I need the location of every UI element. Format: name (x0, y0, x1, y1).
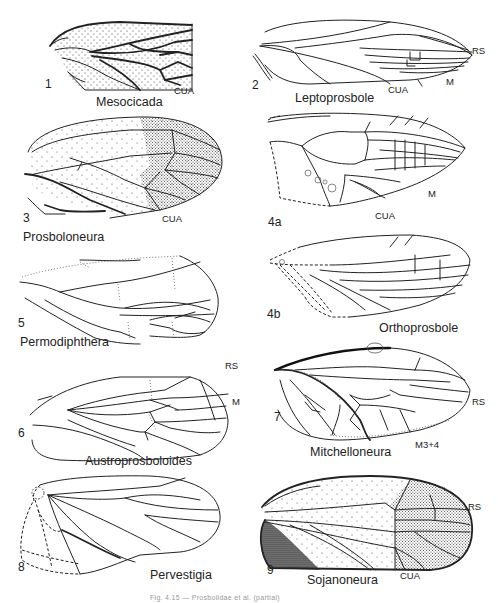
panel-number: 3 (23, 211, 30, 225)
panel-number: 1 (45, 77, 52, 91)
wing-drawing-orthoprosbole-4b (250, 225, 498, 335)
vein-label-cua: CUA (375, 210, 395, 221)
vein-label-m: M (446, 76, 454, 87)
vein-label-rs: RS (468, 501, 481, 512)
genus-name: Pervestigia (150, 568, 212, 582)
panel-number: 2 (252, 78, 259, 92)
genus-name: Permodiphthera (20, 335, 109, 349)
vein-label-cua: CUA (162, 213, 182, 224)
wing-panel-7: 7 Mitchelloneura RS M3+4 (250, 340, 498, 465)
wing-panel-4b: 4b Orthoprosbole (250, 225, 498, 335)
wing-panel-5: 5 Permodiphthera (0, 240, 250, 360)
panel-number: 6 (18, 426, 25, 440)
wing-panel-1: 1 Mesocicada CUA (0, 0, 250, 110)
panel-number: 4b (267, 307, 280, 321)
vein-label-rs: RS (225, 360, 238, 371)
wing-drawing-pervestigia (0, 470, 250, 595)
panel-number: 8 (18, 560, 25, 574)
genus-name: Orthoprosbole (379, 321, 458, 335)
panel-number: 7 (274, 410, 281, 424)
wing-panel-8: 8 Pervestigia (0, 470, 250, 595)
genus-name: Mitchelloneura (310, 445, 391, 459)
genus-name: Austroprosboloides (85, 454, 192, 468)
vein-label-cua: CUA (174, 85, 194, 96)
wing-panel-6: 6 Austroprosboloides RS M (0, 360, 250, 480)
vein-label-m3-4: M3+4 (415, 439, 439, 450)
vein-label-m: M (428, 188, 436, 199)
vein-label-m: M (232, 396, 240, 407)
panel-number: 9 (267, 563, 274, 577)
figure-caption: Fig. 4.15 — Prosbolidae et al. (partial) (150, 594, 280, 601)
wing-panel-2: 2 Leptoprosbole RS M CUA (250, 0, 498, 110)
wing-panel-9: 9 Sojanoneura RS CUA (250, 470, 498, 595)
wing-drawing-mesocicada (0, 0, 250, 110)
vein-label-rs: RS (472, 396, 485, 407)
genus-name: Leptoprosbole (295, 91, 374, 105)
genus-name: Sojanoneura (307, 573, 378, 587)
vein-label-rs: RS (472, 45, 485, 56)
panel-number: 5 (18, 316, 25, 330)
vein-label-cua: CUA (400, 570, 420, 581)
wing-panel-4a: 4a M CUA (250, 110, 498, 220)
wing-drawing-orthoprosbole-4a (250, 110, 498, 220)
vein-label-cua: CUA (388, 84, 408, 95)
genus-name: Mesocicada (96, 95, 163, 109)
wing-panel-3: 3 Prosboloneura CUA (0, 110, 250, 260)
